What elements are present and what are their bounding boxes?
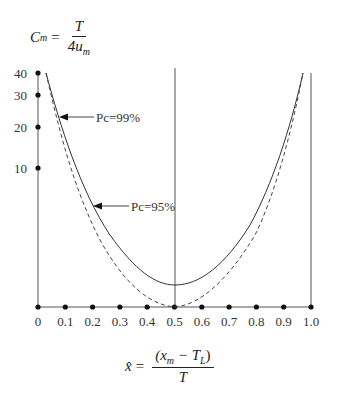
x-formula-eq: = [136, 358, 144, 375]
x-formula-lhs: x̂ [125, 358, 132, 375]
y-tick-20: 20 [14, 120, 27, 135]
y-tick-40: 40 [14, 66, 27, 81]
x-tick-0.1: 0.1 [57, 314, 73, 329]
x-formula-num-open: (x [155, 347, 167, 363]
chart-plot: 40 30 20 10 0 0.1 0.2 0.3 0.4 0.5 0.6 0.… [0, 0, 337, 405]
x-formula-num-sub1: m [167, 355, 174, 366]
x-formula-fraction: (xm − TL) T [152, 347, 213, 386]
x-formula-num-mid: − T [174, 347, 200, 363]
x-tick-labels: 0 0.1 0.2 0.3 0.4 0.5 0.6 0.7 0.8 0.9 1.… [35, 314, 319, 329]
y-tick-30: 30 [14, 88, 27, 103]
x-tick-0.3: 0.3 [112, 314, 128, 329]
x-tick-0.5: 0.5 [166, 314, 182, 329]
x-tick-0.2: 0.2 [84, 314, 100, 329]
x-tick-1.0: 1.0 [303, 314, 319, 329]
x-axis-formula: x̂ = (xm − TL) T [125, 347, 214, 386]
annotation-pc99-label: Pc=99% [96, 110, 140, 125]
y-tick-10: 10 [14, 161, 27, 176]
x-tick-0.4: 0.4 [139, 314, 156, 329]
annotation-pc95: Pc=95% [93, 199, 175, 214]
annotation-pc99: Pc=99% [59, 110, 140, 125]
x-tick-0.9: 0.9 [276, 314, 292, 329]
x-formula-num: (xm − TL) [152, 347, 213, 368]
x-tick-0.8: 0.8 [248, 314, 264, 329]
annotation-pc95-label: Pc=95% [131, 199, 175, 214]
x-tick-0: 0 [35, 314, 42, 329]
x-tick-0.7: 0.7 [221, 314, 238, 329]
x-formula-den: T [179, 368, 187, 386]
x-tick-0.6: 0.6 [194, 314, 211, 329]
x-formula-num-close: ) [206, 347, 211, 363]
